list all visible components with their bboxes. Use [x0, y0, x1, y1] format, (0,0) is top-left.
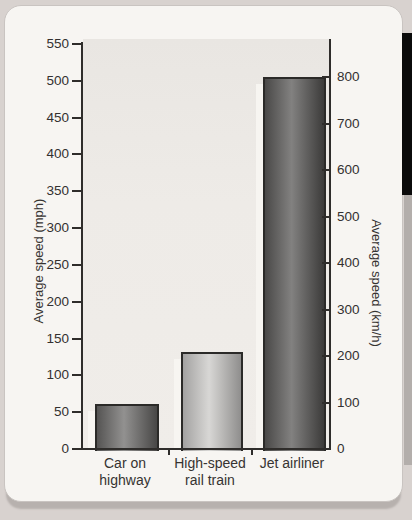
left-axis-tick-label-50: 50	[29, 404, 69, 420]
right-axis-tick-label-500: 500	[337, 209, 360, 225]
right-axis-tick-400	[322, 262, 329, 264]
left-axis-tick-label-450: 450	[29, 110, 69, 126]
category-divider-tick-0	[168, 450, 170, 455]
right-axis-tick-0	[322, 448, 329, 450]
left-axis-tick-label-0: 0	[29, 441, 69, 457]
left-axis-tick-0	[72, 448, 81, 450]
right-axis-tick-600	[322, 169, 329, 171]
screenshot-root: 550500450400350300250200150100500 800700…	[0, 0, 412, 520]
left-axis-tick-150	[72, 338, 81, 340]
left-axis-tick-450	[72, 117, 81, 119]
left-axis-tick-250	[72, 264, 81, 266]
left-axis-tick-label-150: 150	[29, 331, 69, 347]
right-axis-line	[329, 39, 331, 450]
book-page: 550500450400350300250200150100500 800700…	[4, 5, 403, 502]
category-label-car-on-highway-line2: highway	[99, 472, 150, 488]
left-axis-tick-300	[72, 227, 81, 229]
book-edge-shadow	[404, 195, 412, 465]
left-axis-tick-label-350: 350	[29, 183, 69, 199]
left-axis-tick-50	[72, 411, 81, 413]
left-axis-tick-label-550: 550	[29, 36, 69, 52]
left-axis-tick-550	[72, 43, 81, 45]
left-axis-tick-100	[72, 374, 81, 376]
right-axis-tick-800	[322, 76, 329, 78]
bar-car-on-highway	[95, 404, 159, 451]
right-axis-tick-100	[322, 402, 329, 404]
right-axis-tick-label-800: 800	[337, 69, 360, 85]
category-label-jet-airliner-line1: Jet airliner	[260, 455, 325, 471]
left-axis-tick-label-400: 400	[29, 146, 69, 162]
left-axis-tick-350	[72, 190, 81, 192]
x-axis-line	[81, 448, 331, 450]
left-axis-tick-500	[72, 80, 81, 82]
left-axis-tick-label-100: 100	[29, 367, 69, 383]
right-axis-tick-label-400: 400	[337, 255, 360, 271]
right-axis-tick-700	[322, 123, 329, 125]
left-axis-tick-200	[72, 301, 81, 303]
right-axis-tick-label-100: 100	[337, 395, 360, 411]
right-axis-tick-label-200: 200	[337, 348, 360, 364]
bar-high-speed-rail-train	[181, 352, 243, 451]
right-axis-title: Average speed (km/h)	[369, 219, 384, 347]
category-label-car-on-highway-line1: Car on	[104, 455, 146, 471]
right-axis-tick-label-300: 300	[337, 302, 360, 318]
right-axis-tick-200	[322, 355, 329, 357]
left-axis-line	[81, 42, 83, 450]
right-axis-tick-300	[322, 309, 329, 311]
category-divider-tick-1	[251, 450, 253, 455]
right-axis-tick-500	[322, 216, 329, 218]
bar-jet-airliner	[263, 77, 326, 451]
right-axis-tick-label-0: 0	[337, 441, 345, 457]
book-edge-black-tab	[402, 33, 412, 195]
left-axis-tick-label-500: 500	[29, 73, 69, 89]
category-label-high-speed-rail-train-line1: High-speed	[174, 455, 246, 471]
category-label-high-speed-rail-train-line2: rail train	[185, 472, 235, 488]
left-axis-tick-400	[72, 153, 81, 155]
right-axis-tick-label-700: 700	[337, 116, 360, 132]
right-axis-tick-label-600: 600	[337, 162, 360, 178]
left-axis-title: Average speed (mph)	[31, 199, 46, 324]
